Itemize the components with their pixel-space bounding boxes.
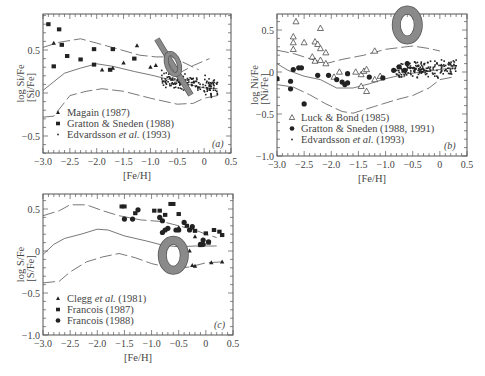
x-tick-label: −0.5 [404, 159, 422, 170]
y-tick-label: −0.5 [22, 288, 40, 299]
legend-entry: Edvardsson et al. (1993) [67, 129, 171, 141]
model-curve-upper-dashed [43, 205, 217, 238]
y-axis-label-bottom: [S/Fe] [25, 255, 36, 281]
legend-entry: Edvardsson et al. (1993) [301, 134, 405, 146]
y-tick-label: −1.0 [22, 330, 40, 341]
x-tick-label: 0.5 [227, 338, 240, 349]
y-axis-label-bottom: [Ni/Fe] [259, 74, 270, 105]
y-tick-label: −0.5 [22, 131, 40, 142]
x-tick-label: 0 [203, 338, 208, 349]
x-tick-label: 0 [202, 156, 207, 167]
x-tick-label: 0 [437, 159, 442, 170]
panel-c-s-fe: −3.0−2.5−2.0−1.5−1.0−0.500.50.50−0.5−1.0… [15, 194, 239, 363]
y-tick-label: 0 [35, 246, 40, 257]
x-tick-label: −2.5 [295, 159, 313, 170]
y-tick-label: 0.5 [28, 204, 41, 215]
x-tick-label: −2.0 [322, 159, 340, 170]
abundance-figure: −3.0−2.5−2.0−1.5−1.0−0.500.50.50−0.5[Fe/… [0, 0, 485, 376]
model-curve-lower-dashed [43, 254, 222, 283]
x-axis-label: [Fe/H] [123, 170, 151, 181]
model-curve-upper-dashed [277, 46, 440, 64]
model-curve-model-solid [43, 64, 218, 91]
ring-annotation [162, 240, 184, 270]
y-tick-label: −0.5 [256, 109, 274, 120]
y-tick-label: −1.0 [256, 151, 274, 162]
y-axis-label-bottom: [Si/Fe] [25, 73, 36, 102]
x-tick-label: −2.0 [88, 156, 106, 167]
panel-tag: (a) [212, 138, 224, 150]
x-tick-label: −1.0 [143, 338, 161, 349]
x-tick-label: −1.5 [349, 159, 367, 170]
x-axis-label: [Fe/H] [358, 173, 386, 184]
y-tick-label: 0.5 [28, 45, 41, 56]
x-tick-label: −2.5 [61, 156, 79, 167]
x-tick-label: −1.5 [115, 156, 133, 167]
panel-a-si-fe: −3.0−2.5−2.0−1.5−1.0−0.500.50.50−0.5[Fe/… [15, 14, 237, 181]
series-gratton-sneden-1988-1991- [274, 61, 409, 107]
panel-tag: (b) [444, 140, 456, 152]
x-tick-label: −2.0 [88, 338, 106, 349]
x-tick-label: −1.0 [377, 159, 395, 170]
x-axis-label: [Fe/H] [124, 352, 152, 363]
x-tick-label: −2.5 [61, 338, 79, 349]
x-tick-label: 0.5 [461, 159, 474, 170]
legend-entry: Francois (1988) [67, 315, 134, 327]
x-tick-label: −3.0 [34, 156, 52, 167]
x-tick-label: −0.5 [170, 338, 188, 349]
legend: Magain (1987)Gratton & Sneden (1988)Edva… [56, 107, 175, 141]
model-curve-extra-dashed [177, 59, 209, 75]
x-tick-label: 0.5 [225, 156, 238, 167]
model-curve-lower-dashed [277, 77, 453, 113]
panel-b-ni-fe: −3.0−2.5−2.0−1.5−1.0−0.500.50.50−0.5−1.0… [249, 10, 473, 184]
ring-annotation [157, 39, 191, 95]
y-tick-label: 0.5 [262, 25, 275, 36]
x-tick-label: −1.0 [141, 156, 159, 167]
panel-tag: (c) [214, 319, 226, 331]
x-tick-label: −0.5 [168, 156, 186, 167]
x-tick-label: −1.5 [115, 338, 133, 349]
legend: Luck & Bond (1985)Gratton & Sneden (1988… [289, 112, 434, 146]
legend: Clegg et al. (1981)Francois (1987)Franco… [56, 293, 147, 327]
